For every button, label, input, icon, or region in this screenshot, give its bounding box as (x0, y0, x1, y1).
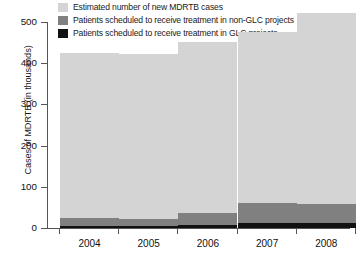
bar-segment (178, 42, 237, 213)
bar-segment (238, 203, 297, 224)
bar-segment (238, 223, 297, 228)
bar-segment (60, 226, 119, 228)
bar-segment (178, 225, 237, 228)
bar-segment (297, 223, 356, 228)
bar-segment (119, 219, 178, 226)
bar-2008 (297, 13, 356, 228)
bar-segment (119, 54, 178, 219)
bar-segment (60, 218, 119, 226)
bar-2006 (178, 42, 237, 228)
bar-2004 (60, 53, 119, 228)
bar-segment (119, 226, 178, 228)
bar-segment (297, 204, 356, 223)
bar-2007 (238, 32, 297, 228)
bar-segment (238, 32, 297, 203)
bar-2005 (119, 54, 178, 228)
bar-segment (178, 213, 237, 225)
bar-segment (297, 13, 356, 205)
bar-segment (60, 53, 119, 218)
